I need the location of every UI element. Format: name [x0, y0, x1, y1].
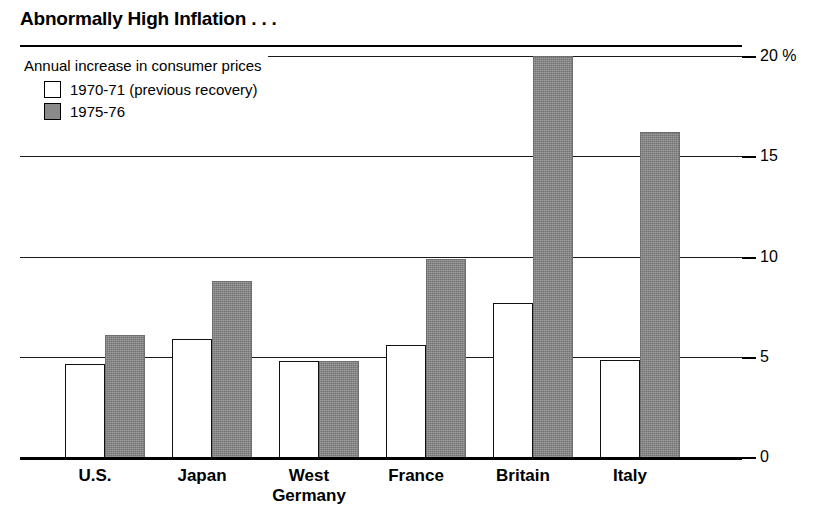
legend-subtitle: Annual increase in consumer prices: [22, 56, 262, 76]
category-label-britain: Britain: [473, 466, 573, 486]
tick-mark-10: [742, 257, 756, 259]
tick-label-5: 5: [760, 349, 769, 365]
legend-item-1975-76: 1975-76: [44, 103, 262, 120]
bar-italy-1970-71: [600, 360, 640, 458]
tick-label-10: 10: [760, 249, 778, 265]
tick-mark-5: [742, 357, 756, 359]
bar-japan-1975-76: [212, 281, 252, 458]
legend-swatch-light-icon: [44, 81, 61, 98]
title-divider-rule: [20, 45, 742, 47]
bar-us-1970-71: [65, 364, 105, 458]
bar-britain-1970-71: [493, 303, 533, 458]
tick-mark-0: [742, 457, 756, 459]
bar-west-germany-1975-76: [319, 361, 359, 458]
chart-legend: Annual increase in consumer prices 1970-…: [20, 52, 268, 125]
category-label-france: France: [366, 466, 466, 486]
gridline-15: [20, 156, 742, 157]
inflation-bar-chart: Abnormally High Inflation . . . 20 % 15: [0, 0, 814, 529]
legend-label-1975-76: 1975-76: [70, 103, 125, 120]
bar-us-1975-76: [105, 335, 145, 458]
chart-title: Abnormally High Inflation . . .: [20, 8, 277, 30]
bar-britain-1975-76: [533, 56, 573, 458]
bar-italy-1975-76: [640, 132, 680, 458]
category-label-west-germany: West Germany: [259, 466, 359, 506]
bar-france-1970-71: [386, 345, 426, 458]
tick-mark-15: [742, 156, 756, 158]
category-label-japan: Japan: [152, 466, 252, 486]
category-label-italy: Italy: [580, 466, 680, 486]
legend-item-1970-71: 1970-71 (previous recovery): [44, 81, 262, 98]
legend-label-1970-71: 1970-71 (previous recovery): [70, 81, 258, 98]
tick-mark-20: [742, 56, 756, 58]
axis-baseline: [20, 457, 742, 460]
category-label-us: U.S.: [45, 466, 145, 486]
legend-swatch-dark-icon: [44, 103, 61, 120]
bar-west-germany-1970-71: [279, 361, 319, 458]
tick-label-20: 20 %: [760, 48, 796, 64]
bar-japan-1970-71: [172, 339, 212, 458]
gridline-10: [20, 257, 742, 258]
bar-france-1975-76: [426, 259, 466, 458]
tick-label-0: 0: [760, 449, 769, 465]
tick-label-15: 15: [760, 148, 778, 164]
